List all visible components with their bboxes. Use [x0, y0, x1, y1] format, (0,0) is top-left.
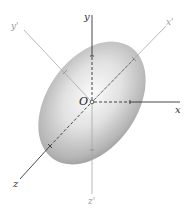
- label-origin: O: [79, 96, 88, 107]
- axis-z: [20, 146, 50, 179]
- label-z-prime: z': [88, 197, 95, 206]
- label-x: x: [175, 105, 181, 115]
- origin-point: [90, 100, 94, 104]
- label-x-prime: x': [166, 18, 174, 27]
- ellipsoid-diagram: y x z x' y' z' O: [0, 0, 188, 212]
- label-y-prime: y': [11, 22, 19, 31]
- label-y: y: [84, 12, 90, 22]
- diagram-canvas: [0, 0, 188, 212]
- label-z: z: [13, 179, 18, 189]
